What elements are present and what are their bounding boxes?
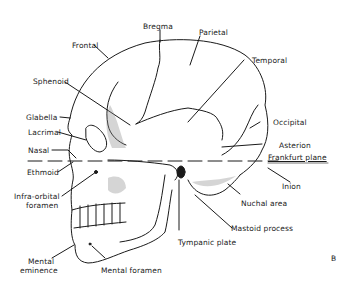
label-occipital: Occipital (273, 118, 307, 127)
orbit (86, 125, 107, 152)
label-bregma: Bregma (143, 22, 173, 31)
label-temporal: Temporal (252, 56, 287, 65)
label-mental-eminence-2: eminence (20, 266, 58, 275)
label-mental-foramen: Mental foramen (101, 266, 162, 275)
lambdoid-suture (222, 105, 258, 155)
lower-teeth (74, 222, 126, 228)
zygomatic-arch (108, 160, 178, 180)
label-inion: Inion (282, 182, 301, 191)
label-asterion: Asterion (279, 141, 311, 150)
label-glabella: Glabella (26, 113, 57, 122)
label-nuchal-area: Nuchal area (241, 199, 287, 208)
label-ethmoid: Ethmoid (27, 168, 59, 177)
squamous-suture (136, 108, 223, 140)
label-nasal: Nasal (28, 146, 49, 155)
mental-foramen (89, 243, 91, 245)
figure-letter: B (331, 254, 336, 263)
external-meatus (177, 166, 185, 178)
label-mental-eminence-1: Mental (28, 257, 54, 266)
label-infra-orbital-2: foramen (26, 201, 58, 210)
label-parietal: Parietal (199, 28, 228, 37)
label-infra-orbital-1: Infra-orbital (14, 192, 60, 201)
coronal-suture (136, 40, 160, 124)
label-tympanic-plate: Tympanic plate (178, 238, 236, 247)
cranium-outline (70, 40, 268, 175)
label-lacrimal: Lacrimal (28, 128, 61, 137)
label-sphenoid: Sphenoid (33, 77, 69, 86)
label-mastoid-process: Mastoid process (231, 224, 293, 233)
mandible-ramus (120, 175, 165, 242)
label-frontal: Frontal (72, 41, 98, 50)
label-frankfurt-plane: Frankfurt plane (268, 153, 327, 162)
